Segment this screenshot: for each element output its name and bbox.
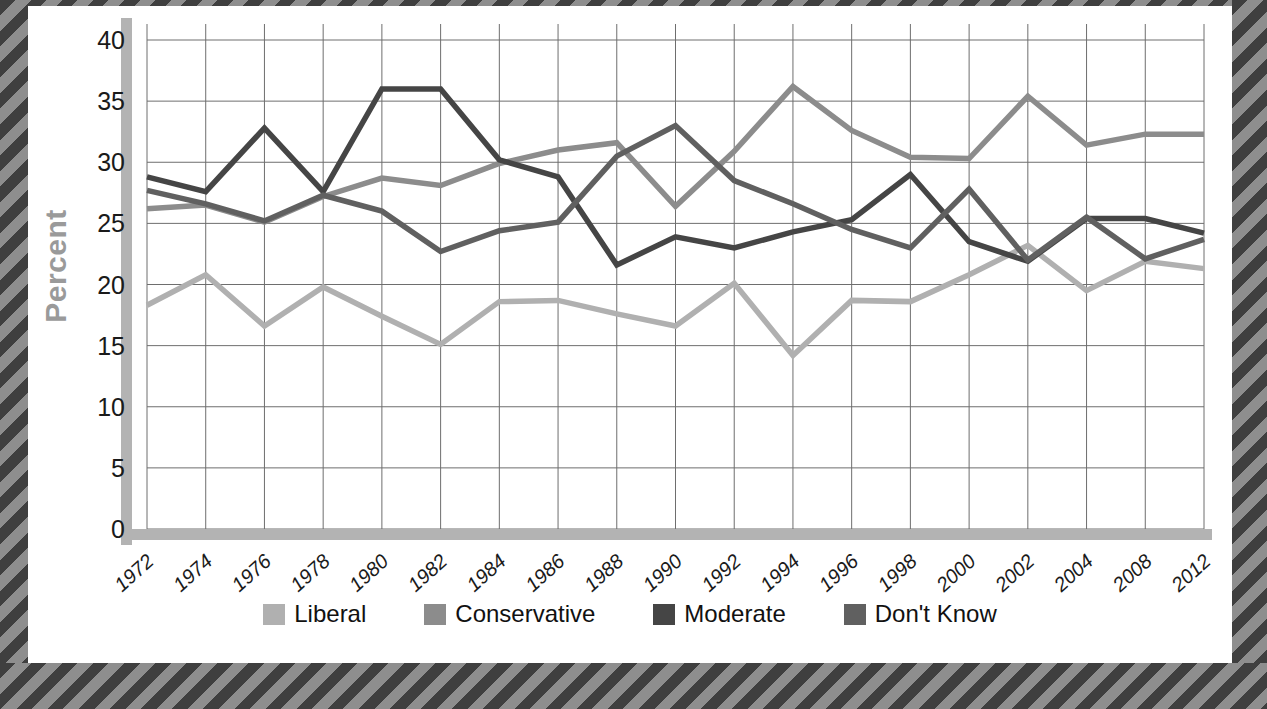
y-tick-labels: 0510152025303540 xyxy=(97,26,125,543)
x-tick-label: 1982 xyxy=(403,550,451,596)
frame-hatch-left xyxy=(0,0,28,709)
x-tick-label: 1988 xyxy=(580,550,628,596)
legend-label: Moderate xyxy=(684,600,785,628)
legend-swatch-icon xyxy=(263,604,285,625)
legend-swatch-icon xyxy=(424,604,446,625)
x-tick-label: 1990 xyxy=(638,550,686,596)
y-tick-label: 25 xyxy=(97,209,125,237)
legend-label: Liberal xyxy=(294,600,366,628)
frame-hatch-bottom xyxy=(0,663,1267,709)
x-tick-label: 2008 xyxy=(1107,550,1156,597)
y-tick-label: 15 xyxy=(97,332,125,360)
x-tick-label: 1996 xyxy=(815,549,863,596)
x-tick-label: 1980 xyxy=(345,550,393,596)
x-tick-labels: 1972197419761978198019821984198619881990… xyxy=(110,549,1212,596)
x-axis-bar xyxy=(121,529,1212,540)
x-tick-label: 2002 xyxy=(990,550,1039,597)
x-tick-label: 2000 xyxy=(931,550,980,597)
x-tick-label: 1972 xyxy=(110,550,158,596)
legend-label: Don't Know xyxy=(875,600,997,628)
x-tick-label: 1984 xyxy=(462,550,510,596)
x-tick-label: 1992 xyxy=(697,550,745,596)
y-tick-label: 30 xyxy=(97,148,125,176)
chart-plate: Percent 0510152025303540 197219741976197… xyxy=(28,6,1232,663)
legend-swatch-icon xyxy=(844,604,866,625)
x-tick-label: 1974 xyxy=(169,550,217,596)
legend-label: Conservative xyxy=(455,600,595,628)
x-tick-label: 1998 xyxy=(873,550,921,596)
legend-item[interactable]: Conservative xyxy=(424,600,595,628)
axis-layer xyxy=(121,18,1212,545)
chart-page: Percent 0510152025303540 197219741976197… xyxy=(0,0,1267,709)
x-tick-label: 2004 xyxy=(1049,550,1098,597)
x-tick-label: 1976 xyxy=(227,549,275,596)
legend-item[interactable]: Moderate xyxy=(653,600,785,628)
legend-item[interactable]: Don't Know xyxy=(844,600,997,628)
y-tick-label: 35 xyxy=(97,87,125,115)
x-tick-label: 1978 xyxy=(286,550,334,596)
legend-item[interactable]: Liberal xyxy=(263,600,366,628)
frame-hatch-right xyxy=(1232,0,1267,709)
chart-legend: LiberalConservativeModerateDon't Know xyxy=(28,600,1232,628)
grid-layer xyxy=(147,24,1204,529)
y-tick-label: 10 xyxy=(97,393,125,421)
y-tick-label: 40 xyxy=(97,26,125,54)
y-tick-label: 5 xyxy=(111,454,125,482)
y-tick-label: 20 xyxy=(97,271,125,299)
x-tick-label: 1986 xyxy=(521,549,569,596)
x-tick-label: 1994 xyxy=(756,550,804,596)
line-chart: 0510152025303540 19721974197619781980198… xyxy=(52,14,1212,614)
y-tick-label: 0 xyxy=(111,515,125,543)
x-tick-label: 2012 xyxy=(1166,550,1212,597)
legend-swatch-icon xyxy=(653,604,675,625)
